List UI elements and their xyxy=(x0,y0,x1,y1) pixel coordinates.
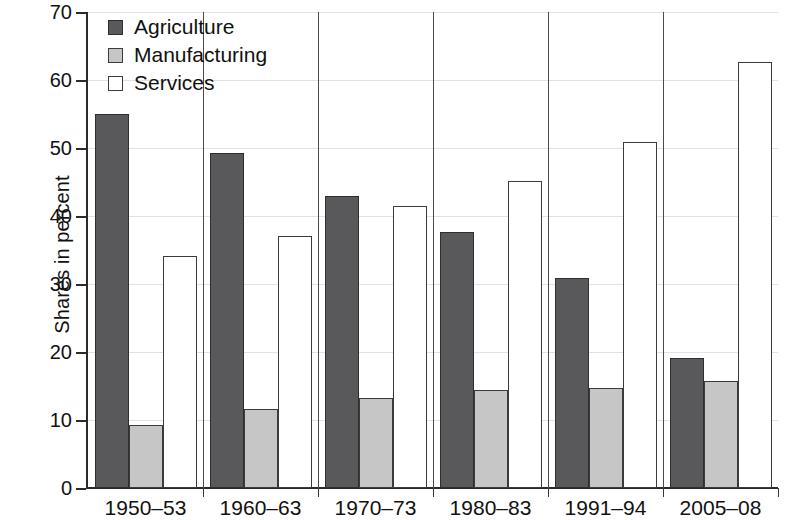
x-axis-tick-mark xyxy=(548,488,549,497)
legend-label-manufacturing: Manufacturing xyxy=(134,43,267,67)
bar-services-1991–94[interactable] xyxy=(623,142,657,488)
y-axis-tick-mark xyxy=(76,80,86,82)
x-axis-tick-mark xyxy=(318,488,319,497)
bar-group xyxy=(548,12,663,488)
y-axis-tick-label: 60 xyxy=(50,69,72,92)
bar-services-1950–53[interactable] xyxy=(163,256,197,488)
bar-manufacturing-1980–83[interactable] xyxy=(474,390,508,488)
bar-chart: Shares in percent 010203040506070 1950–5… xyxy=(0,0,785,520)
legend-swatch-manufacturing-icon xyxy=(108,48,123,63)
legend-swatch-services-icon xyxy=(108,76,123,91)
x-axis-tick-label: 1970–73 xyxy=(335,496,417,520)
bar-manufacturing-1950–53[interactable] xyxy=(129,425,163,488)
y-axis-tick-mark xyxy=(76,420,86,422)
y-axis-tick-mark xyxy=(76,284,86,286)
x-axis-tick-mark xyxy=(203,488,204,497)
x-axis-tick-label: 1950–53 xyxy=(105,496,187,520)
y-axis-tick-label: 30 xyxy=(50,273,72,296)
legend-item-services: Services xyxy=(108,70,267,96)
y-axis-tick-mark xyxy=(76,216,86,218)
bar-services-1970–73[interactable] xyxy=(393,206,427,488)
y-axis-tick-mark xyxy=(76,148,86,150)
bar-group xyxy=(318,12,433,488)
bar-agriculture-1950–53[interactable] xyxy=(95,114,129,488)
y-axis-tick-label: 10 xyxy=(50,409,72,432)
legend-label-agriculture: Agriculture xyxy=(134,15,234,39)
y-axis-tick-label: 0 xyxy=(61,477,72,500)
bar-agriculture-2005–08[interactable] xyxy=(670,358,704,488)
legend-swatch-agriculture-icon xyxy=(108,20,123,35)
legend: Agriculture Manufacturing Services xyxy=(108,14,267,98)
x-axis-tick-label: 1980–83 xyxy=(450,496,532,520)
y-axis-tick-label: 70 xyxy=(50,1,72,24)
bar-manufacturing-1991–94[interactable] xyxy=(589,388,623,488)
y-axis-tick-label: 50 xyxy=(50,137,72,160)
x-axis-tick-mark xyxy=(778,488,779,497)
bar-agriculture-1980–83[interactable] xyxy=(440,232,474,488)
bar-agriculture-1960–63[interactable] xyxy=(210,153,244,488)
y-axis-tick-mark xyxy=(76,12,86,14)
y-axis-tick-label: 40 xyxy=(50,205,72,228)
y-axis-tick-mark xyxy=(76,352,86,354)
y-axis-tick-mark xyxy=(76,488,86,490)
x-axis-tick-label: 2005–08 xyxy=(680,496,762,520)
x-axis-tick-label: 1991–94 xyxy=(565,496,647,520)
x-axis-tick-mark xyxy=(433,488,434,497)
y-axis-tick-label: 20 xyxy=(50,341,72,364)
legend-label-services: Services xyxy=(134,71,215,95)
legend-item-agriculture: Agriculture xyxy=(108,14,267,40)
bar-services-1960–63[interactable] xyxy=(278,236,312,488)
bar-services-1980–83[interactable] xyxy=(508,181,542,488)
bar-agriculture-1991–94[interactable] xyxy=(555,278,589,488)
bar-agriculture-1970–73[interactable] xyxy=(325,196,359,488)
bar-services-2005–08[interactable] xyxy=(738,62,772,488)
bar-group xyxy=(663,12,778,488)
legend-item-manufacturing: Manufacturing xyxy=(108,42,267,68)
bar-manufacturing-2005–08[interactable] xyxy=(704,381,738,488)
x-axis-tick-mark xyxy=(663,488,664,497)
bar-manufacturing-1960–63[interactable] xyxy=(244,409,278,488)
bar-manufacturing-1970–73[interactable] xyxy=(359,398,393,488)
x-axis-tick-label: 1960–63 xyxy=(220,496,302,520)
bar-group xyxy=(433,12,548,488)
